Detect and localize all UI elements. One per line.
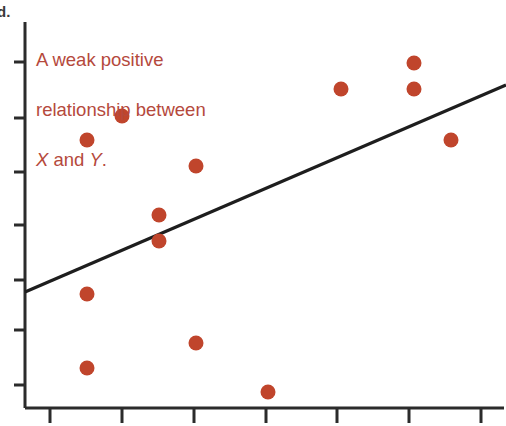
x-axis-ticks <box>50 408 481 423</box>
annotation-line-2: relationship between <box>36 97 226 122</box>
y-axis <box>14 22 25 408</box>
data-point <box>444 133 459 148</box>
data-point <box>80 361 95 376</box>
annotation-line-3: X and Y. <box>36 147 226 172</box>
data-point <box>80 287 95 302</box>
annotation-conjunction: and <box>48 149 89 170</box>
chart-annotation: A weak positive relationship between X a… <box>36 22 226 197</box>
scatter-plot-figure: d. <box>0 0 506 426</box>
x-axis <box>25 408 504 423</box>
annotation-period: . <box>102 149 107 170</box>
data-point <box>407 56 422 71</box>
data-point <box>189 336 204 351</box>
data-point <box>334 82 349 97</box>
y-axis-ticks <box>14 62 25 385</box>
data-point <box>152 234 167 249</box>
annotation-variable-y: Y <box>90 149 102 170</box>
data-point <box>152 208 167 223</box>
annotation-variable-x: X <box>36 149 48 170</box>
annotation-line-1: A weak positive <box>36 47 226 72</box>
data-point <box>407 82 422 97</box>
data-point <box>261 385 276 400</box>
